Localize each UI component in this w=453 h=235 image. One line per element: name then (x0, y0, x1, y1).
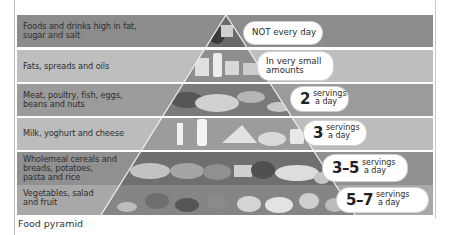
food-pyramid-figure: Foods and drinks high in fat, sugar and … (17, 15, 433, 215)
recommendation-line: amounts (266, 66, 321, 76)
unit-line: a day (376, 199, 410, 207)
recommendation-pill-fats: In very small amounts (258, 52, 333, 80)
recommendation-text: In very small amounts (258, 57, 329, 76)
figure-caption: Food pyramid (18, 218, 83, 229)
recommendation-pill-treats: NOT every day (244, 22, 322, 44)
servings-number: 5–7 (337, 191, 373, 209)
recommendation-pill-vegetables: 5–7 servings a day (337, 188, 428, 212)
recommendation-text: NOT every day (244, 28, 324, 38)
servings-number: 3 (304, 124, 323, 142)
servings-number: 2 (291, 90, 310, 108)
servings-unit: servings a day (359, 159, 405, 175)
unit-line: a day (313, 98, 347, 106)
servings-unit: servings a day (323, 124, 369, 140)
recommendation-pill-grains: 3–5 servings a day (323, 155, 407, 181)
servings-number: 3–5 (323, 159, 359, 177)
servings-unit: servings a day (310, 90, 356, 106)
pyramid-shape (17, 15, 433, 215)
unit-line: a day (362, 167, 396, 175)
servings-unit: servings a day (373, 191, 419, 207)
unit-line: a day (326, 132, 360, 140)
frame-left-border (14, 0, 15, 235)
recommendation-pill-dairy: 3 servings a day (304, 121, 366, 145)
recommendation-pill-meat: 2 servings a day (291, 87, 348, 111)
frame-right-border (435, 0, 436, 218)
